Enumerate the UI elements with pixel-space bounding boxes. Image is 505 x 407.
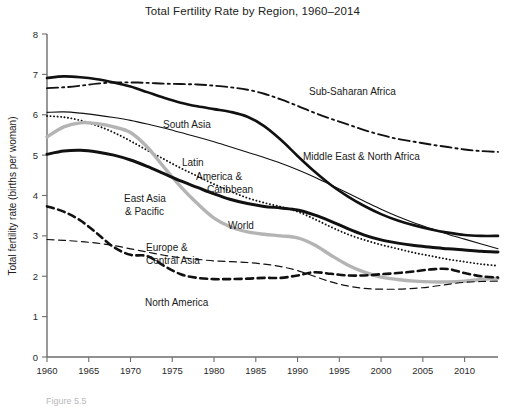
- series-line-sub-saharan-africa: [47, 82, 498, 152]
- x-tick-label: 1965: [78, 365, 99, 376]
- y-axis-ticks: 012345678: [33, 29, 47, 363]
- y-tick-label: 0: [33, 352, 38, 363]
- sub-saharan-africa-label: Sub-Saharan Africa: [309, 86, 396, 97]
- y-tick-label: 4: [33, 190, 38, 201]
- x-tick-label: 1980: [203, 365, 224, 376]
- east-asia-line1-label: East Asia: [124, 193, 166, 204]
- north-america-label: North America: [145, 297, 209, 308]
- x-tick-label: 1990: [287, 365, 308, 376]
- latin-line1-label: Latin: [182, 157, 204, 168]
- latin-line2-label: America &: [196, 171, 242, 182]
- series-line-latin-america-caribbean: [47, 116, 498, 266]
- world-label: World: [228, 220, 254, 231]
- europe-line2-label: Central Asia: [146, 255, 200, 266]
- x-tick-label: 2000: [371, 365, 392, 376]
- y-tick-label: 7: [33, 69, 38, 80]
- x-tick-label: 1970: [120, 365, 141, 376]
- fertility-rate-line-chart: 012345678 196019651970197519801985199019…: [0, 0, 505, 407]
- y-tick-label: 1: [33, 311, 38, 322]
- x-tick-label: 2005: [412, 365, 433, 376]
- east-asia-line2-label: & Pacific: [125, 206, 164, 217]
- y-axis-title: Total fertility rate (births per woman): [7, 117, 18, 276]
- x-tick-label: 1995: [329, 365, 350, 376]
- x-tick-label: 1960: [36, 365, 57, 376]
- x-tick-label: 1975: [162, 365, 183, 376]
- latin-line3-label: Caribbean: [207, 184, 253, 195]
- x-tick-label: 2010: [454, 365, 475, 376]
- middle-east-north-africa-label: Middle East & North Africa: [303, 151, 420, 162]
- figure-root: Total Fertility Rate by Region, 1960–201…: [0, 0, 505, 407]
- series-line-north-america: [47, 206, 498, 279]
- y-tick-label: 8: [33, 29, 38, 40]
- y-tick-label: 2: [33, 271, 38, 282]
- figure-caption: Figure 5.5: [46, 396, 87, 406]
- y-tick-label: 5: [33, 150, 38, 161]
- y-tick-label: 6: [33, 109, 38, 120]
- europe-line1-label: Europe &: [146, 242, 188, 253]
- x-axis-ticks: 1960196519701975198019851990199520002005…: [36, 357, 475, 376]
- south-asia-label: South Asia: [163, 119, 211, 130]
- series-line-east-asia-pacific: [47, 123, 498, 282]
- series-lines-group: [47, 76, 498, 289]
- y-tick-label: 3: [33, 230, 38, 241]
- x-tick-label: 1985: [245, 365, 266, 376]
